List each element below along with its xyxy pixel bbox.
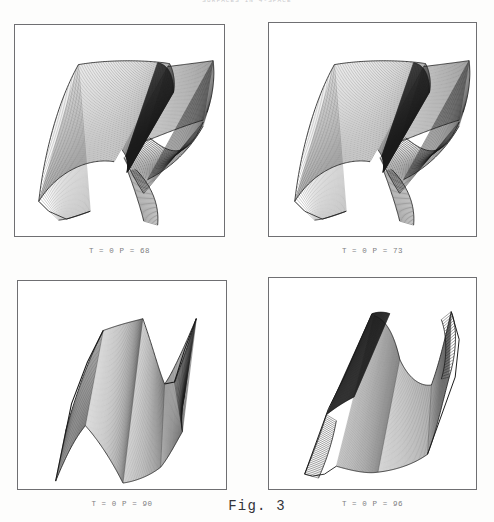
surface-plot-top-right — [269, 23, 476, 236]
figure-panel-top-left — [14, 24, 225, 237]
figure-page: SURFACES IN 4-SPACE T = 0 P = 68 T = 0 P… — [0, 0, 494, 522]
caption-bottom-left: T = 0 P = 90 — [17, 500, 227, 508]
figure-panel-bottom-right — [268, 277, 477, 490]
figure-panel-bottom-left — [17, 280, 227, 490]
surface-plot-bottom-right — [269, 278, 476, 489]
figure-number-label: Fig. 3 — [214, 498, 300, 514]
running-head: SURFACES IN 4-SPACE — [0, 0, 494, 4]
surface-plot-bottom-left — [18, 281, 226, 489]
surface-plot-top-left — [15, 25, 224, 236]
figure-panel-top-right — [268, 22, 477, 237]
caption-top-right: T = 0 P = 73 — [268, 247, 477, 255]
caption-top-left: T = 0 P = 68 — [14, 247, 225, 255]
